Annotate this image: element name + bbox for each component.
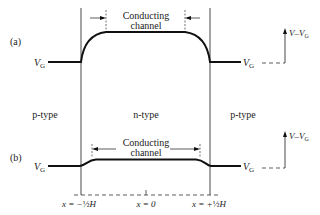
panel-a-axis-arrow-icon: [283, 28, 287, 34]
panel-b-right-vg-label: VG: [243, 161, 254, 174]
panel-a-right-arrow-icon: [185, 16, 191, 20]
region-middle-label: n-type: [133, 109, 159, 120]
x-axis-left-tick-label: x = −½H: [61, 199, 96, 209]
panel-a-potential-curve: [48, 32, 241, 62]
panel-a-channel-label-line2: channel: [130, 20, 161, 31]
panel-a-axis-label: V–VG: [289, 28, 310, 39]
panel-a-label: (a): [10, 36, 21, 48]
panel-b-right-arrow-icon: [194, 147, 200, 151]
panel-b-axis-arrow-icon: [283, 131, 287, 137]
panel-b-potential-curve: [48, 160, 241, 167]
panel-a-left-arrow-icon: [100, 16, 106, 20]
panel-b-left-vg-label: VG: [34, 161, 45, 174]
panel-b-left-arrow-icon: [92, 147, 98, 151]
x-axis-right-tick-label: x = +½H: [191, 199, 226, 209]
panel-b-axis-label: V–VG: [289, 131, 310, 142]
panel-b-channel-label-line2: channel: [130, 147, 161, 158]
region-right-label: p-type: [230, 109, 256, 120]
x-axis-center-tick-label: x = 0: [135, 199, 156, 209]
panel-a-left-vg-label: VG: [34, 57, 45, 70]
panel-a-right-vg-label: VG: [243, 57, 254, 70]
jfet-channel-diagram: (a) VG VG V–VG Conducting channel p-type…: [0, 0, 320, 215]
panel-b-label: (b): [10, 152, 22, 164]
region-left-label: p-type: [32, 109, 58, 120]
